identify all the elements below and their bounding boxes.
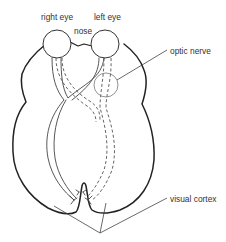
optic-nerve-label: optic nerve [170, 46, 211, 56]
right-eye-nerve-cross [54, 100, 76, 198]
left-eye-solid-branch [72, 58, 99, 100]
nose-label: nose [74, 26, 92, 36]
diagram-canvas [0, 0, 226, 242]
visual-pathway-diagram: right eye left eye nose optic nerve visu… [0, 0, 226, 242]
right-eye-nerve-inner [61, 58, 104, 98]
right-eye-label: right eye [41, 12, 73, 22]
left-eye-circle [91, 30, 119, 58]
left-eye-nerve-dashed-inner [88, 58, 107, 196]
visual-cortex-label: visual cortex [170, 194, 216, 204]
nose-notch [70, 42, 92, 46]
visual-cortex-leader [54, 198, 167, 233]
right-eye-nerve-outer [47, 58, 74, 200]
optic-nerve-leader [117, 50, 167, 80]
brain-outline [13, 44, 154, 214]
optic-nerve-ring [94, 73, 118, 97]
right-eye-circle [43, 30, 71, 58]
right-eye-nerve-dashed-2 [56, 58, 96, 122]
left-eye-label: left eye [94, 12, 121, 22]
